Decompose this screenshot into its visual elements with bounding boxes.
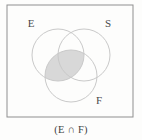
venn-diagram-canvas: E S F (E ∩ F) (0, 0, 142, 140)
set-label-f: F (96, 94, 102, 106)
figure-caption: (E ∩ F) (54, 124, 88, 136)
venn-diagram-figure: E S F (E ∩ F) (0, 0, 142, 140)
set-label-e: E (28, 17, 35, 29)
set-label-s: S (105, 17, 111, 29)
